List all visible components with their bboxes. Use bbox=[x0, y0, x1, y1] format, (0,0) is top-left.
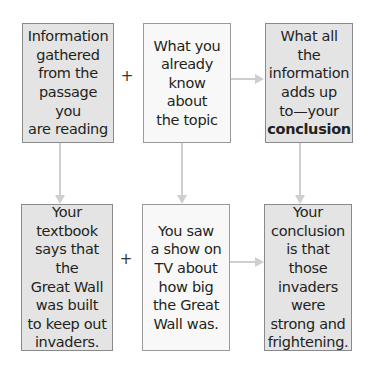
arrow-right-icon bbox=[255, 257, 264, 267]
box-text: What you already know about the topic bbox=[147, 37, 227, 130]
box-prior-knowledge: What you already know about the topic bbox=[143, 23, 231, 143]
box-text: What all the information adds up to—your bbox=[269, 28, 349, 118]
connector-line bbox=[231, 78, 255, 80]
box-text: You saw a show on TV about how big the G… bbox=[151, 222, 222, 334]
box-text: Your conclusion is that those invaders w… bbox=[268, 203, 349, 352]
arrow-down-icon bbox=[177, 195, 187, 204]
box-passage-information: Information gathered from the passage yo… bbox=[22, 23, 114, 143]
box-text-bold: conclusion bbox=[267, 121, 351, 137]
box-example-conclusion: Your conclusion is that those invaders w… bbox=[264, 204, 352, 351]
box-text: Your textbook says that the Great Wall w… bbox=[25, 203, 109, 352]
connector-line bbox=[299, 143, 301, 195]
box-conclusion: What all the information adds up to—your… bbox=[265, 23, 353, 143]
box-example-knowledge: You saw a show on TV about how big the G… bbox=[142, 204, 230, 351]
box-text: Information gathered from the passage yo… bbox=[26, 27, 110, 139]
connector-line bbox=[230, 261, 255, 263]
connector-line bbox=[181, 143, 183, 195]
box-example-passage: Your textbook says that the Great Wall w… bbox=[21, 204, 113, 351]
plus-operator-bottom: + bbox=[119, 252, 133, 266]
plus-operator-top: + bbox=[120, 69, 134, 83]
arrow-right-icon bbox=[255, 74, 264, 84]
connector-line bbox=[59, 143, 61, 195]
box-text-wrap: What all the information adds up to—your… bbox=[267, 27, 351, 139]
